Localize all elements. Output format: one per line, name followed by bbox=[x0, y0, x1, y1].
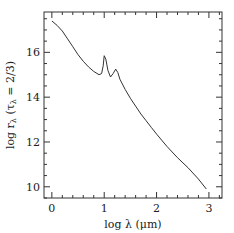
y-tick-label: 10 bbox=[26, 181, 40, 194]
plot-frame bbox=[44, 12, 222, 198]
x-tick-label: 0 bbox=[48, 202, 55, 215]
x-tick-label: 1 bbox=[101, 202, 108, 215]
x-tick-label: 2 bbox=[153, 202, 160, 215]
tick-labels: 012310121416 bbox=[26, 46, 212, 215]
y-tick-label: 12 bbox=[26, 136, 40, 149]
y-axis-label: log rλ (τλ = 2/3) bbox=[4, 61, 18, 149]
y-tick-label: 14 bbox=[26, 91, 40, 104]
y-tick-label: 16 bbox=[26, 46, 40, 59]
x-tick-label: 3 bbox=[205, 202, 212, 215]
x-axis-label: log λ (μm) bbox=[104, 218, 161, 231]
chart: 012310121416 log λ (μm) log rλ (τλ = 2/3… bbox=[0, 0, 234, 233]
series-line-log-r-lambda bbox=[52, 21, 206, 189]
ticks bbox=[44, 12, 222, 198]
